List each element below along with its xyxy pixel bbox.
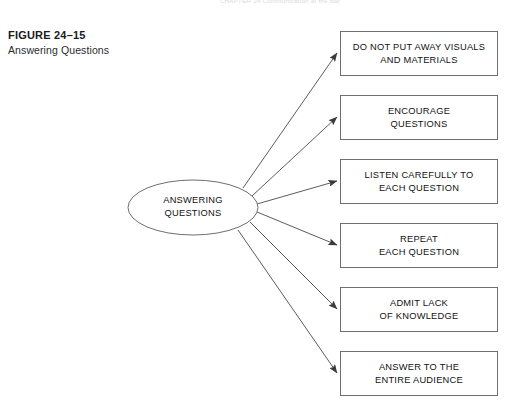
connector-arrow-6: [238, 230, 337, 373]
flow-node-label: LISTEN CAREFULLY TO EACH QUESTION: [365, 169, 474, 194]
connector-arrow-1: [243, 53, 337, 188]
flow-node-5[interactable]: ADMIT LACK OF KNOWLEDGE: [340, 287, 498, 332]
flow-node-label: DO NOT PUT AWAY VISUALS AND MATERIALS: [353, 41, 486, 66]
flow-node-6[interactable]: ANSWER TO THE ENTIRE AUDIENCE: [340, 351, 498, 396]
connector-arrow-3: [257, 181, 337, 204]
flow-node-1[interactable]: DO NOT PUT AWAY VISUALS AND MATERIALS: [340, 31, 498, 76]
hub-label: ANSWERING QUESTIONS: [127, 194, 259, 219]
flow-node-4[interactable]: REPEAT EACH QUESTION: [340, 223, 498, 268]
figure-page: CHAPTER 24 Communication at the Bar FIGU…: [0, 0, 519, 411]
flow-node-label: ADMIT LACK OF KNOWLEDGE: [380, 297, 459, 322]
flow-node-label: REPEAT EACH QUESTION: [379, 233, 459, 258]
connector-arrow-4: [257, 212, 337, 245]
flow-node-2[interactable]: ENCOURAGE QUESTIONS: [340, 95, 498, 140]
flow-node-label: ANSWER TO THE ENTIRE AUDIENCE: [375, 361, 463, 386]
flow-node-label: ENCOURAGE QUESTIONS: [388, 105, 450, 130]
flow-node-3[interactable]: LISTEN CAREFULLY TO EACH QUESTION: [340, 159, 498, 204]
